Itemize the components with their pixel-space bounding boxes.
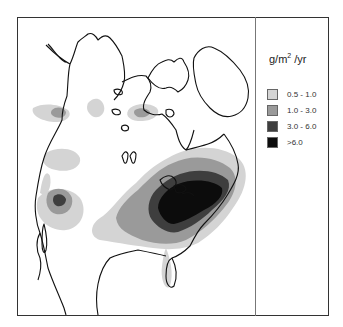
legend-unit-title: g/m2 /yr	[269, 52, 307, 65]
legend-label: 0.5 - 1.0	[287, 90, 316, 99]
legend-unit-main: g/m	[269, 53, 287, 65]
swatch-black-icon	[267, 137, 278, 148]
legend-unit-tail: /yr	[291, 53, 306, 65]
contour-layer	[33, 99, 246, 288]
deposition-map	[18, 18, 255, 315]
swatch-light-icon	[267, 89, 278, 100]
legend-item-0-5-1-0: 0.5 - 1.0	[267, 88, 316, 100]
legend-item-1-0-3-0: 1.0 - 3.0	[267, 104, 316, 116]
legend-panel: g/m2 /yr 0.5 - 1.0 1.0 - 3.0 3.0 - 6.0 >…	[257, 18, 328, 315]
legend-label: 1.0 - 3.0	[287, 106, 316, 115]
legend-label: >6.0	[287, 138, 303, 147]
legend-item-3-0-6-0: 3.0 - 6.0	[267, 120, 316, 132]
legend-label: 3.0 - 6.0	[287, 122, 316, 131]
legend-item-gt-6-0: >6.0	[267, 136, 303, 148]
swatch-dark-icon	[267, 121, 278, 132]
swatch-medium-icon	[267, 105, 278, 116]
legend-divider	[255, 17, 256, 316]
